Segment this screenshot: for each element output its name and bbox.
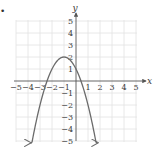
svg-text:3: 3	[68, 41, 73, 50]
svg-text:4: 4	[121, 83, 126, 92]
svg-text:−4: −4	[22, 83, 34, 92]
svg-text:2: 2	[97, 83, 102, 92]
svg-text:−2: −2	[46, 83, 58, 92]
svg-text:−1: −1	[61, 89, 73, 98]
svg-text:3: 3	[109, 83, 114, 92]
svg-text:1: 1	[85, 83, 90, 92]
svg-text:−5: −5	[10, 83, 22, 92]
svg-text:5: 5	[133, 83, 138, 92]
svg-text:−5: −5	[61, 137, 73, 146]
tick-labels: −5−4−3−2−11234554321−1−2−3−4−5	[10, 17, 138, 146]
svg-text:1: 1	[68, 65, 73, 74]
parabola-graph: −5−4−3−2−11234554321−1−2−3−4−5 x y	[0, 0, 154, 157]
x-axis-label: x	[147, 76, 152, 86]
svg-text:−2: −2	[61, 101, 73, 110]
svg-text:−3: −3	[61, 113, 73, 122]
svg-text:−4: −4	[61, 125, 73, 134]
svg-text:5: 5	[68, 17, 73, 26]
y-axis-label: y	[71, 3, 78, 13]
svg-text:4: 4	[68, 29, 73, 38]
